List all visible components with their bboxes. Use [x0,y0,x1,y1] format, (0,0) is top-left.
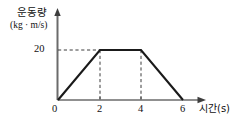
guide-lines [58,50,141,99]
momentum-data-line [58,50,183,100]
y-axis [54,8,60,100]
momentum-time-graph-figure: 운동량 (kg · m/s) 시간(s) 20 0 2 4 6 [0,0,239,123]
x-tick-label-2: 2 [97,104,102,115]
x-tick-label-6: 6 [180,104,185,115]
x-axis-title: 시간(s) [199,104,230,114]
y-axis-title: 운동량 [17,7,48,18]
x-tick-label-4: 4 [138,104,143,115]
y-axis-units: (kg · m/s) [10,21,47,31]
x-tick-label-0: 0 [52,104,57,115]
y-axis-arrowhead [54,8,60,16]
y-tick-label-20: 20 [34,44,45,55]
